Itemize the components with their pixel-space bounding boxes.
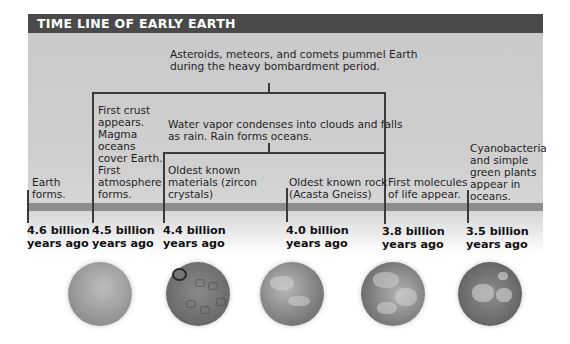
cloud-patch [395,288,417,306]
event-line: First crust [98,104,163,116]
event-earth-forms: Earth forms. [32,176,66,200]
event-line: forms. [32,188,66,200]
date-value: 4.0 billion [286,224,349,237]
cloud-patch [377,302,397,314]
cloud-patch [373,272,399,288]
date-4-4: 4.4 billion years ago [163,224,226,250]
ocean-earth-icon [361,262,425,326]
crater-icon [186,300,196,308]
event-line: Oldest known [168,164,257,176]
date-4-6: 4.6 billion years ago [27,224,90,250]
event-line: oceans. [470,190,547,202]
event-line: and simple [470,154,547,166]
tick-4-5 [92,92,94,223]
date-value: 3.8 billion [382,225,445,238]
continent-patch [472,284,494,302]
date-value: 4.5 billion [92,224,155,237]
event-line: crystals) [168,188,257,200]
date-3-5: 3.5 billion years ago [466,225,529,251]
cloud-patch [288,296,310,306]
event-line: Oldest known rock [289,176,387,188]
event-line: oceans [98,140,163,152]
tick-4-6 [27,190,29,223]
tick-4-0 [286,188,288,222]
event-oldest-rock: Oldest known rock (Acasta Gneiss) [289,176,387,200]
bombardment-bracket [93,92,385,94]
event-line: cover Earth. [98,152,163,164]
event-first-crust: First crust appears. Magma oceans cover … [98,104,163,200]
event-line: atmosphere [98,176,163,188]
continent-patch [496,288,512,302]
bombardment-text: Asteroids, meteors, and comets pummel Ea… [170,48,417,72]
date-3-8: 3.8 billion years ago [382,225,445,251]
water-text: Water vapor condenses into clouds and fa… [168,118,402,142]
event-line: First molecules [388,176,467,188]
date-4-0: 4.0 billion years ago [286,224,349,250]
event-line: appears. [98,116,163,128]
event-line: First [98,164,163,176]
event-line: Earth [32,176,66,188]
event-line: forms. [98,188,163,200]
bombardment-line-2: during the heavy bombardment period. [170,60,417,72]
event-line: Cyanobacteria [470,142,547,154]
date-value: 3.5 billion [466,225,529,238]
water-line-2: as rain. Rain forms oceans. [168,130,402,142]
date-unit: years ago [27,237,90,250]
tick-4-4 [163,152,165,223]
crater-icon [195,279,205,287]
date-value: 4.6 billion [27,224,90,237]
date-4-5: 4.5 billion years ago [92,224,155,250]
event-oldest-materials: Oldest known materials (zircon crystals) [168,164,257,200]
cloudy-earth-icon [260,262,324,326]
crater-icon [200,306,210,314]
bombardment-line-1: Asteroids, meteors, and comets pummel Ea… [170,48,417,60]
molten-earth-icon [68,262,132,326]
diagram-title: TIME LINE OF EARLY EARTH [37,16,236,31]
cratered-earth-icon [166,262,230,326]
date-value: 4.4 billion [163,224,226,237]
event-cyanobacteria: Cyanobacteria and simple green plants ap… [470,142,547,202]
event-line: appear in [470,178,547,190]
date-unit: years ago [286,237,349,250]
title-bar: TIME LINE OF EARLY EARTH [28,14,543,33]
date-unit: years ago [163,237,226,250]
event-line: (Acasta Gneiss) [289,188,387,200]
cloud-patch [270,276,294,290]
impact-icon [172,268,187,281]
event-line: materials (zircon [168,176,257,188]
event-first-molecules: First molecules of life appear. [388,176,467,200]
water-line-1: Water vapor condenses into clouds and fa… [168,118,402,130]
continents-earth-icon [458,262,522,326]
date-unit: years ago [382,238,445,251]
event-line: green plants [470,166,547,178]
date-unit: years ago [466,238,529,251]
crater-icon [216,298,226,306]
water-bracket [163,152,385,154]
date-unit: years ago [92,237,155,250]
crater-icon [208,282,218,290]
continent-patch [498,272,508,280]
event-line: Magma [98,128,163,140]
tick-3-8 [384,92,386,224]
event-line: of life appear. [388,188,467,200]
